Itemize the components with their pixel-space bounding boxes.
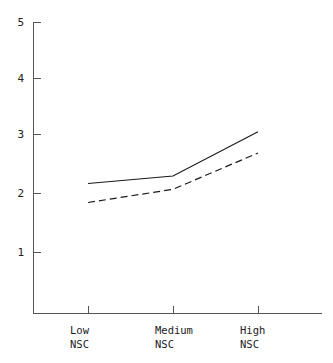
- x-axis-label-high-line1: High: [240, 323, 265, 337]
- x-tick-marks: [89, 306, 259, 314]
- series-solid-line: [88, 132, 258, 184]
- line-chart: 5 4 3 2 1 Low NSC Medium NSC High NSC: [0, 0, 333, 363]
- x-axis-label-high-line2: NSC: [240, 337, 265, 351]
- x-axis-label-low: Low NSC: [70, 323, 89, 351]
- y-axis-label-5: 5: [4, 17, 24, 28]
- y-axis-label-4: 4: [4, 73, 24, 84]
- y-axis-label-1: 1: [4, 247, 24, 258]
- plot-area: [0, 0, 333, 363]
- y-axis-label-2: 2: [4, 188, 24, 199]
- y-tick-marks: [34, 23, 42, 253]
- x-axis-label-medium-line2: NSC: [155, 337, 193, 351]
- x-axis-label-low-line1: Low: [70, 323, 89, 337]
- x-axis-label-high: High NSC: [240, 323, 265, 351]
- x-axis-label-low-line2: NSC: [70, 337, 89, 351]
- x-axis-label-medium-line1: Medium: [155, 323, 193, 337]
- series-dashed-line: [88, 153, 258, 203]
- y-axis-label-3: 3: [4, 129, 24, 140]
- x-axis-label-medium: Medium NSC: [155, 323, 193, 351]
